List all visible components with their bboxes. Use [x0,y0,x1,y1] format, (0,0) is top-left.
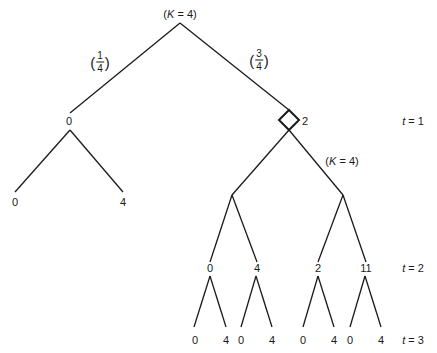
node-t2-1: 4 [254,263,260,274]
edge-left-right [70,130,123,192]
leaf-left-1: 4 [120,197,126,208]
node-t3-1: 4 [223,335,229,346]
edge-root-right [180,23,289,110]
edge [318,195,343,262]
root-label: (K = 4) [163,9,196,20]
leaf-left-0: 0 [12,197,18,208]
exercise-diamond-icon [279,110,299,130]
edge-right-left [232,130,289,195]
edge [365,276,381,327]
node-t1-right: 2 [302,116,308,127]
node-t2-2: 2 [315,263,321,274]
edge [350,276,365,327]
edge [318,276,334,327]
node-t3-2: 0 [238,335,244,346]
edge [210,195,232,262]
edge-root-left [70,23,180,113]
edge [241,276,256,327]
node-t3-0: 0 [192,335,198,346]
edge-left-left [15,130,70,192]
node-t3-7: 4 [378,335,384,346]
edge [256,276,272,327]
probability-left: (14) [90,51,110,74]
edge [210,276,226,327]
node-t1-right-annotation: (K = 4) [325,156,358,167]
edge [343,195,366,262]
node-t1-left: 0 [66,116,72,127]
probability-right: (34) [249,49,269,72]
edge [303,276,318,327]
node-t3-5: 4 [331,335,337,346]
node-t2-0: 0 [207,263,213,274]
node-t3-3: 4 [269,335,275,346]
node-t3-4: 0 [300,335,306,346]
edge [194,276,210,327]
binomial-tree-diagram: (K = 4) (14) (34) 0 2 (K = 4) 0 4 0 4 2 … [0,0,437,353]
time-label-t1: t = 1 [402,116,424,127]
node-t3-6: 0 [347,335,353,346]
node-t2-3: 11 [360,263,371,274]
time-label-t2: t = 2 [402,263,424,274]
edge [232,195,257,262]
tree-edges [0,0,437,353]
time-label-t3: t = 3 [402,335,424,346]
